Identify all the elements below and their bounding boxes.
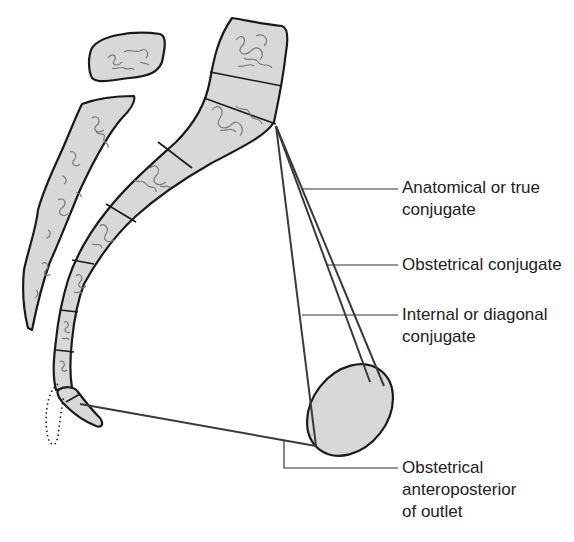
label-obstetrical-ap-outlet: Obstetrical anteroposterior of outlet [402,457,516,523]
label-line: Internal or diagonal [402,304,548,326]
pelvic-outlet [289,347,410,473]
label-obstetrical-conjugate: Obstetrical conjugate [402,254,562,276]
label-line: conjugate [402,326,548,348]
label-anatomical-true-conjugate: Anatomical or true conjugate [402,177,540,221]
label-line: Anatomical or true [402,177,540,199]
label-line: Obstetrical [402,457,516,479]
bone-fragment-top [89,33,165,81]
sacrum [54,18,288,390]
label-line: of outlet [402,501,516,523]
coccyx [46,384,102,445]
label-line: Obstetrical conjugate [402,254,562,276]
label-line: anteroposterior [402,479,516,501]
label-internal-diagonal-conjugate: Internal or diagonal conjugate [402,304,548,348]
label-line: conjugate [402,199,540,221]
